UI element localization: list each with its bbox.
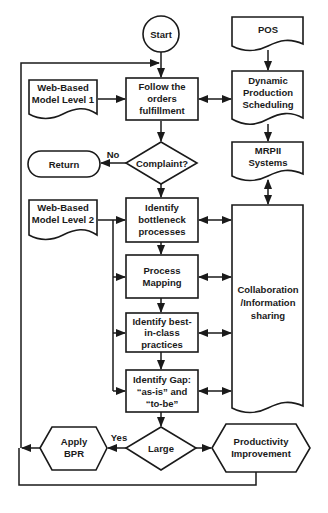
collab-line-1: Collaboration [237,284,298,295]
complaint-label: Complaint? [136,158,188,169]
gap-line-2: “as-is” and [137,386,188,397]
dynamic-line-3: Scheduling [242,99,293,110]
web2-line-2: Model Level 2 [32,214,94,225]
dynamic-line-1: Dynamic [248,75,288,86]
follow-line-1: Follow the [139,81,186,92]
gap-line-1: Identify Gap: [133,374,191,385]
start-node: Start [143,16,179,52]
return-label: Return [49,159,80,170]
pos-document: POS [232,17,303,51]
web-based-level-1-document: Web-Based Model Level 1 [29,80,97,119]
mrp-line-1: MRPII [255,145,281,156]
collaboration-information-sharing-document: Collaboration /Information sharing [232,205,303,413]
bpr-line-1: Apply [61,436,88,447]
mrpii-systems-document: MRPII Systems [232,142,303,181]
web1-line-1: Web-Based [37,82,89,93]
follow-orders-process: Follow the orders fulfillment [126,78,198,120]
dynamic-production-scheduling-document: Dynamic Production Scheduling [232,71,303,124]
web1-line-2: Model Level 1 [32,94,95,105]
mrp-line-2: Systems [248,157,287,168]
collab-line-2: /Information [241,297,296,308]
no-edge-label: No [107,149,120,160]
process-mapping-process: Process Mapping [126,255,198,298]
productivity-line-1: Productivity [234,436,290,447]
productivity-line-2: Improvement [231,448,291,459]
identify-gap-process: Identify Gap: “as-is” and “to-be” [126,370,198,412]
mapping-line-2: Mapping [142,277,181,288]
productivity-improvement-preparation: Productivity Improvement [212,424,310,472]
return-terminator: Return [28,151,100,177]
best-line-1: Identify best- [132,316,191,327]
large-decision: Large [126,427,196,470]
bottleneck-line-1: Identify [145,202,179,213]
dynamic-line-2: Production [243,87,293,98]
web2-line-1: Web-Based [37,202,89,213]
follow-line-3: fulfillment [139,105,185,116]
yes-edge-label: Yes [111,432,127,443]
follow-line-2: orders [147,93,177,104]
gap-line-3: “to-be” [146,398,179,409]
web-based-level-2-document: Web-Based Model Level 2 [29,200,97,240]
start-label: Start [150,29,172,40]
identify-bottleneck-process: Identify bottleneck processes [126,198,198,242]
best-line-3: practices [141,339,183,350]
apply-bpr-preparation: Apply BPR [40,427,107,470]
bottleneck-line-2: bottleneck [138,214,186,225]
flowchart-canvas: Start Follow the orders fulfillment Web-… [0,0,328,513]
complaint-decision: Complaint? [126,142,197,184]
collab-line-3: sharing [251,310,286,321]
bpr-line-2: BPR [64,448,84,459]
best-line-2: in-class [144,327,179,338]
mapping-line-1: Process [144,265,181,276]
large-label: Large [148,443,174,454]
identify-best-in-class-process: Identify best- in-class practices [126,313,198,352]
pos-label: POS [258,24,278,35]
bottleneck-line-3: processes [138,226,185,237]
